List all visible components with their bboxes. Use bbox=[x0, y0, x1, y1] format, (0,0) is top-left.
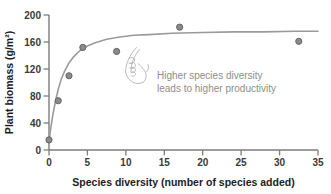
x-axis-tick-labels: 0 5 10 15 20 25 30 35 bbox=[46, 157, 324, 168]
data-point bbox=[114, 48, 120, 54]
y-axis-tick-labels: 0 40 80 120 160 200 bbox=[24, 10, 41, 156]
y-axis-ticks bbox=[44, 15, 50, 150]
y-tick-label-0: 0 bbox=[35, 145, 41, 156]
y-tick-label-200: 200 bbox=[24, 10, 41, 21]
data-point bbox=[66, 73, 72, 79]
x-tick-label-15: 15 bbox=[159, 157, 171, 168]
x-tick-label-25: 25 bbox=[236, 157, 248, 168]
annotation-line-1: Higher species diversity bbox=[157, 70, 263, 81]
y-tick-label-160: 160 bbox=[24, 37, 41, 48]
x-tick-label-10: 10 bbox=[120, 157, 132, 168]
x-tick-label-20: 20 bbox=[197, 157, 209, 168]
annotation-line-2: leads to higher productivity bbox=[157, 83, 276, 94]
data-point bbox=[177, 24, 183, 30]
y-axis-title: Plant biomass (g/m²) bbox=[3, 31, 15, 134]
x-tick-label-0: 0 bbox=[46, 157, 52, 168]
y-tick-label-120: 120 bbox=[24, 64, 41, 75]
x-tick-label-5: 5 bbox=[85, 157, 91, 168]
plant-biomass-scatter-chart: 0 40 80 120 160 200 0 5 10 15 20 25 30 bbox=[0, 0, 331, 194]
data-point bbox=[46, 137, 52, 143]
pointing-hand-icon bbox=[126, 48, 149, 84]
data-point bbox=[55, 98, 61, 104]
data-point bbox=[80, 44, 86, 50]
x-axis-title: Species diversity (number of species add… bbox=[72, 176, 294, 188]
x-tick-label-35: 35 bbox=[312, 157, 324, 168]
x-axis-ticks bbox=[49, 150, 318, 156]
y-tick-label-40: 40 bbox=[30, 118, 42, 129]
y-tick-label-80: 80 bbox=[30, 91, 42, 102]
x-tick-label-30: 30 bbox=[274, 157, 286, 168]
data-point bbox=[296, 38, 302, 44]
chart-figure: 0 40 80 120 160 200 0 5 10 15 20 25 30 bbox=[0, 0, 331, 194]
